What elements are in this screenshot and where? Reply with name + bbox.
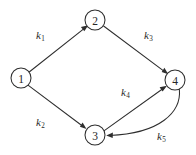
edge-label-k4: k4	[121, 87, 130, 98]
node-2[interactable]: 2	[85, 10, 105, 30]
node-4[interactable]: 4	[165, 70, 185, 90]
node-3[interactable]: 3	[85, 125, 105, 145]
edge-4-to-3	[106, 90, 179, 139]
edge-label-k5-subscript: 5	[162, 136, 166, 144]
edge-2-to-4-line	[104, 26, 166, 72]
edge-3-to-4-line	[104, 88, 164, 131]
edge-2-to-4	[104, 26, 169, 74]
edge-label-k2: k2	[36, 117, 45, 128]
node-4-label: 4	[172, 75, 178, 87]
edge-label-k3-subscript: 3	[149, 35, 153, 43]
node-2-label: 2	[92, 15, 98, 27]
edge-label-k2-subscript: 2	[41, 122, 45, 130]
edge-label-k1-subscript: 1	[41, 35, 45, 43]
edge-4-to-3-arrowhead	[106, 133, 113, 139]
kinetic-scheme-diagram: 1 2 3 4 k1 k3 k2 k4 k5	[0, 0, 196, 155]
graph-canvas: 1 2 3 4	[0, 0, 196, 155]
edge-label-k4-subscript: 4	[126, 92, 130, 100]
node-1[interactable]: 1	[11, 68, 31, 88]
edge-1-to-3-arrowhead	[80, 123, 87, 130]
edge-label-k1: k1	[36, 30, 45, 41]
edge-label-k5: k5	[157, 131, 166, 142]
node-1-label: 1	[18, 73, 24, 85]
node-3-label: 3	[92, 130, 98, 142]
edge-label-k3: k3	[144, 30, 153, 41]
